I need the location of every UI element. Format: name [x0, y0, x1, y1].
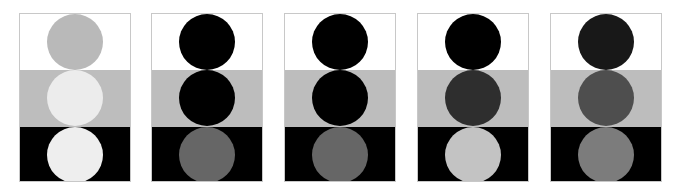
circle-top — [179, 14, 235, 70]
circle-middle — [312, 70, 368, 126]
circle-top — [312, 14, 368, 70]
panel-5 — [550, 13, 662, 182]
circle-bottom — [578, 127, 634, 182]
circle-bottom — [47, 127, 103, 182]
circle-top — [47, 14, 103, 70]
circle-bottom — [312, 127, 368, 182]
panel-4 — [417, 13, 529, 182]
panel-1 — [19, 13, 131, 182]
circle-middle — [47, 70, 103, 126]
circle-top — [445, 14, 501, 70]
circle-middle — [179, 70, 235, 126]
circle-middle — [578, 70, 634, 126]
panel-3 — [284, 13, 396, 182]
circle-middle — [445, 70, 501, 126]
circle-top — [578, 14, 634, 70]
circle-bottom — [179, 127, 235, 182]
circle-bottom — [445, 127, 501, 182]
panel-2 — [151, 13, 263, 182]
